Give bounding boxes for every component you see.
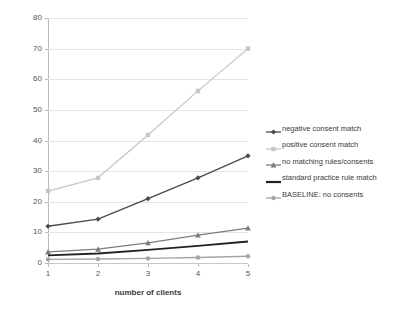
y-tick-label: 80 — [16, 14, 42, 22]
x-tick-mark — [48, 264, 49, 267]
data-point-marker — [246, 46, 250, 50]
data-point-marker — [196, 255, 200, 259]
legend-marker-icon — [266, 173, 281, 183]
data-point-marker — [96, 257, 100, 261]
data-point-marker — [46, 257, 50, 261]
y-tick-label: 70 — [16, 45, 42, 53]
series-0 — [45, 153, 250, 229]
plot-area — [48, 18, 248, 263]
legend-label: BASELINE: no consents — [282, 191, 363, 199]
y-tick-label: 50 — [16, 106, 42, 114]
x-tick-label: 2 — [88, 270, 108, 278]
x-tick-label: 1 — [38, 270, 58, 278]
data-point-marker — [246, 254, 250, 258]
data-point-marker — [46, 189, 50, 193]
legend-label: standard practice rule match — [282, 174, 377, 182]
chart-container: response time in milliseconds 0102030405… — [0, 0, 394, 313]
series-1 — [46, 46, 250, 193]
x-tick-label: 4 — [188, 270, 208, 278]
legend-item-3[interactable]: standard practice rule match — [266, 170, 392, 187]
data-point-marker — [196, 89, 200, 93]
y-tick-label: 60 — [16, 75, 42, 83]
legend-marker-icon — [266, 189, 281, 199]
series-line — [48, 156, 248, 226]
legend-marker-icon — [266, 156, 281, 166]
chart-legend: negative consent matchpositive consent m… — [266, 120, 392, 203]
legend-item-0[interactable]: negative consent match — [266, 120, 392, 137]
x-tick-mark — [98, 264, 99, 267]
legend-label: positive consent match — [282, 141, 358, 149]
x-tick-mark — [148, 264, 149, 267]
data-point-marker — [146, 133, 150, 137]
y-tick-label: 0 — [16, 259, 42, 267]
data-point-marker — [45, 224, 50, 229]
legend-label: negative consent match — [282, 125, 361, 133]
data-point-marker — [95, 217, 100, 222]
data-point-marker — [146, 256, 150, 260]
x-tick-label: 5 — [238, 270, 258, 278]
x-tick-label: 3 — [138, 270, 158, 278]
legend-item-1[interactable]: positive consent match — [266, 137, 392, 154]
legend-label: no matching rules/consents — [282, 158, 373, 166]
data-point-marker — [195, 175, 200, 180]
series-lines — [48, 18, 248, 263]
y-tick-label: 40 — [16, 137, 42, 145]
x-tick-mark — [248, 264, 249, 267]
data-point-marker — [245, 153, 250, 158]
y-tick-label: 10 — [16, 228, 42, 236]
legend-marker-icon — [266, 123, 281, 133]
y-tick-label: 30 — [16, 167, 42, 175]
y-tick-label: 20 — [16, 198, 42, 206]
data-point-marker — [96, 176, 100, 180]
legend-item-2[interactable]: no matching rules/consents — [266, 153, 392, 170]
legend-item-4[interactable]: BASELINE: no consents — [266, 186, 392, 203]
x-tick-mark — [198, 264, 199, 267]
legend-marker-icon — [266, 140, 281, 150]
x-axis-title: number of clients — [48, 288, 248, 297]
data-point-marker — [145, 196, 150, 201]
